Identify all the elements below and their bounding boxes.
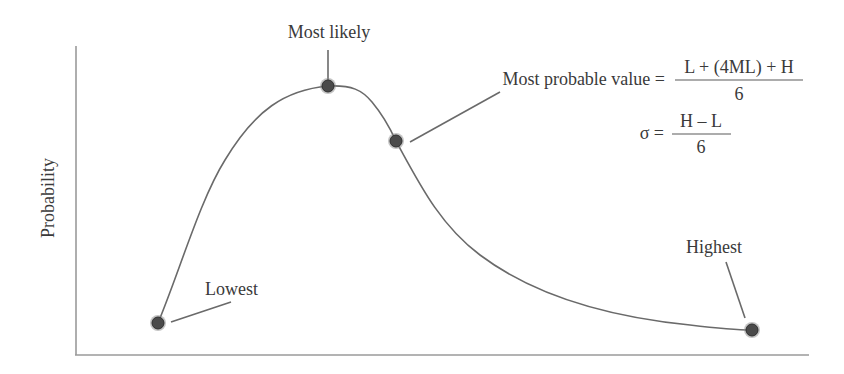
most-probable-leader-line [410,92,500,142]
sigma-formula-numerator: H – L [680,111,722,131]
most-likely-label: Most likely [288,22,371,42]
highest-leader-line [726,262,745,318]
lowest-leader-line [171,302,231,322]
pert-distribution-diagram: Probability Most likely Lowest Highest M… [0,0,844,374]
sigma-formula-denominator: 6 [697,137,706,157]
sigma-formula: σ = H – L 6 [640,111,731,157]
lowest-label: Lowest [205,279,258,299]
highest-point [744,322,760,338]
lowest-point [150,315,166,331]
most-probable-formula: Most probable value = L + (4ML) + H 6 [502,57,803,104]
most-probable-formula-numerator: L + (4ML) + H [684,57,794,78]
highest-label: Highest [686,237,742,257]
sigma-formula-lhs: σ = [640,123,664,143]
y-axis-label: Probability [38,158,58,238]
most-likely-point [320,78,336,94]
most-probable-formula-lhs: Most probable value = [502,69,665,89]
most-probable-formula-denominator: 6 [735,84,744,104]
most-probable-point [388,133,404,149]
